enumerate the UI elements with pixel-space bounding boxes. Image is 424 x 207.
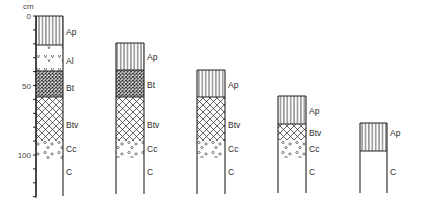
horizon-label: C: [228, 167, 234, 177]
horizon-bt: Bt: [36, 71, 75, 97]
pebbles-fill: [197, 141, 225, 158]
vertical-lines-fill: [116, 43, 144, 70]
horizon-label: Ap: [228, 80, 239, 90]
horizon-bt: Bt: [116, 70, 156, 97]
horizon-ap: Ap: [36, 16, 77, 45]
v-marks-fill: [36, 45, 63, 71]
profile-1: ApAlBtBtvCcC: [36, 16, 79, 196]
horizon-label: Al: [66, 56, 74, 66]
profile-4: ApBtvCcC: [278, 96, 322, 193]
vertical-lines-fill: [278, 96, 306, 124]
horizon-btv: Btv: [278, 124, 322, 140]
horizon-c: C: [309, 167, 315, 177]
coarse-crosshatch-fill: [116, 97, 144, 141]
pebbles-fill: [278, 140, 306, 158]
dense-crosshatch-fill: [116, 70, 144, 97]
horizon-c: C: [66, 167, 72, 177]
horizon-label: Ap: [66, 27, 77, 37]
horizon-label: Cc: [147, 144, 158, 154]
horizon-ap: Ap: [197, 70, 239, 97]
horizon-label: C: [309, 167, 315, 177]
horizon-label: Ap: [147, 52, 158, 62]
axis-tick-label: 100: [18, 151, 32, 160]
horizon-btv: Btv: [36, 97, 79, 141]
coarse-crosshatch-fill: [36, 97, 63, 141]
soil-profile-diagram: v v v cm050100 ApAlBtBtvCcCApBtBtvCcCApB…: [0, 0, 424, 207]
horizon-label: Ap: [390, 128, 401, 138]
vertical-lines-fill: [36, 16, 63, 45]
profiles: ApAlBtBtvCcCApBtBtvCcCApBtvCcCApBtvCcCAp…: [36, 16, 401, 196]
profile-5: ApC: [360, 123, 401, 193]
horizon-c: C: [228, 167, 234, 177]
vertical-lines-fill: [360, 123, 387, 151]
horizon-c: C: [360, 151, 396, 177]
horizon-cc: Cc: [116, 141, 158, 158]
horizon-ap: Ap: [116, 43, 158, 70]
horizon-label: C: [390, 167, 396, 177]
axis-unit-label: cm: [23, 2, 34, 11]
horizon-cc: Cc: [197, 141, 239, 158]
horizon-label: Btv: [66, 120, 79, 130]
horizon-cc: Cc: [36, 141, 77, 160]
horizon-label: Cc: [228, 144, 239, 154]
vertical-lines-fill: [197, 70, 225, 97]
horizon-label: Cc: [66, 144, 77, 154]
horizon-ap: Ap: [360, 123, 401, 151]
horizon-label: Bt: [147, 80, 156, 90]
horizon-label: Btv: [228, 120, 241, 130]
horizon-c: C: [147, 167, 153, 177]
profile-2: ApBtBtvCcC: [116, 43, 160, 194]
horizon-label: Bt: [66, 83, 75, 93]
depth-axis: cm050100: [18, 2, 36, 198]
horizon-label: Cc: [309, 144, 320, 154]
pebbles-fill: [36, 141, 63, 160]
horizon-btv: Btv: [116, 97, 160, 141]
dense-crosshatch-fill: [36, 71, 63, 97]
axis-tick-label: 0: [27, 12, 32, 21]
horizon-btv: Btv: [197, 97, 241, 141]
horizon-label: C: [147, 167, 153, 177]
horizon-ap: Ap: [278, 96, 320, 124]
horizon-cc: Cc: [278, 140, 320, 158]
coarse-crosshatch-fill: [278, 124, 306, 140]
horizon-label: Ap: [309, 106, 320, 116]
coarse-crosshatch-fill: [197, 97, 225, 141]
horizon-al: Al: [36, 45, 74, 71]
horizon-label: C: [66, 167, 72, 177]
axis-tick-label: 50: [22, 82, 31, 91]
profile-3: ApBtvCcC: [197, 70, 241, 194]
horizon-label: Btv: [309, 128, 322, 138]
horizon-label: Btv: [147, 120, 160, 130]
pebbles-fill: [116, 141, 144, 158]
